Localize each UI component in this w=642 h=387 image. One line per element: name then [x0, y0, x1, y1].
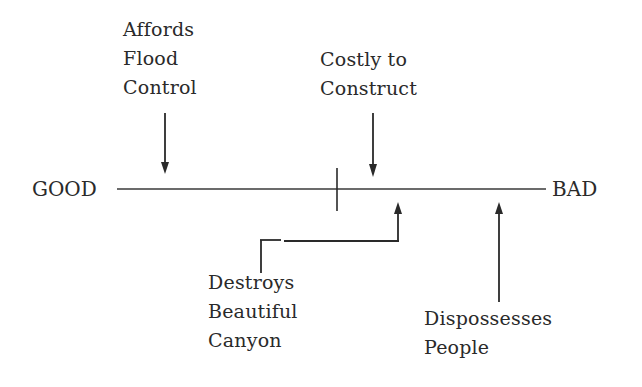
factor-dispossesses-people: Dispossesses People — [424, 304, 552, 362]
arrow-down-icon — [369, 113, 377, 177]
factor-line: People — [424, 333, 552, 362]
factor-destroys-canyon: Destroys Beautiful Canyon — [208, 268, 298, 355]
factor-line: Affords — [123, 15, 197, 44]
arrow-up-icon — [495, 202, 503, 302]
factor-line: Dispossesses — [424, 304, 552, 333]
arrow-up-bracket-icon — [260, 202, 402, 273]
scale-label-good: GOOD — [32, 177, 97, 201]
factor-line: Costly to — [320, 45, 417, 74]
factor-line: Construct — [320, 74, 417, 103]
factor-costly: Costly to Construct — [320, 45, 417, 103]
factor-line: Control — [123, 73, 197, 102]
factor-flood-control: Affords Flood Control — [123, 15, 197, 102]
factor-line: Flood — [123, 44, 197, 73]
arrow-down-icon — [161, 113, 169, 174]
factor-line: Beautiful — [208, 297, 298, 326]
factor-line: Destroys — [208, 268, 298, 297]
factor-line: Canyon — [208, 326, 298, 355]
scale-label-bad: BAD — [552, 177, 597, 201]
